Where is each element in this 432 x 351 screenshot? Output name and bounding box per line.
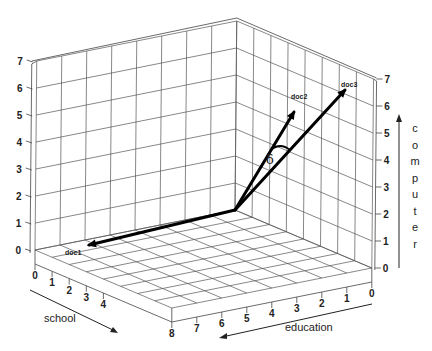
school-tick: 3: [84, 292, 90, 303]
right-wall-gridline: [303, 50, 305, 239]
left-wall-gridline: [35, 61, 37, 250]
school-tick: 0: [32, 270, 38, 281]
school-tick: 1: [49, 277, 55, 288]
computer-axis-arrow: [396, 114, 402, 268]
left-wall-gridline: [85, 51, 87, 240]
right-wall-gridline: [321, 57, 323, 246]
computer-label-letter: o: [412, 139, 418, 151]
right-computer-tick: 6: [384, 101, 390, 112]
right-computer-tick: 7: [385, 74, 391, 85]
left-computer-tick: 3: [16, 164, 22, 175]
school-tick: 2: [66, 285, 72, 296]
doc1-vector: [89, 210, 235, 245]
right-computer-tick: 4: [384, 155, 390, 166]
left-wall-gridline: [210, 26, 212, 215]
doc1-label: doc1: [65, 249, 81, 256]
computer-axis-label: computer: [410, 122, 419, 250]
education-tick: 5: [244, 313, 250, 324]
left-computer-tick: 1: [16, 218, 22, 229]
left-wall-edge: [32, 61, 37, 64]
left-wall-gridline: [135, 41, 137, 230]
left-wall-gridline: [160, 36, 162, 225]
vector-space-diagram: 012345670123456701234801234567 δ doc1 do…: [0, 0, 432, 351]
axis-ticks: 012345670123456701234801234567: [15, 56, 390, 339]
right-computer-tick: 2: [383, 209, 389, 220]
left-computer-tick: 7: [17, 56, 23, 67]
right-wall-gridline: [286, 43, 288, 232]
angle-delta-label: δ: [266, 152, 274, 167]
school-tick: 8: [169, 328, 175, 339]
right-computer-tick: 0: [383, 263, 389, 274]
doc2-label: doc2: [291, 93, 307, 100]
school-axis-label: school: [44, 312, 76, 324]
computer-label-letter: e: [412, 221, 418, 233]
computer-label-letter: u: [412, 188, 418, 200]
education-tick: 7: [194, 323, 200, 334]
right-wall-gridline: [235, 21, 237, 210]
doc3-label: doc3: [341, 81, 357, 88]
document-vectors: [87, 89, 346, 248]
right-computer-tick: 1: [383, 236, 389, 247]
right-wall-gridline: [372, 79, 374, 268]
computer-label-letter: m: [410, 155, 419, 167]
education-tick: 0: [369, 288, 375, 299]
right-wall-gridline: [269, 36, 271, 225]
education-tick: 4: [269, 308, 275, 319]
left-wall-gridline: [110, 46, 112, 235]
education-tick: 3: [294, 303, 300, 314]
left-wall-edge: [30, 64, 32, 253]
left-wall-gridline: [185, 31, 187, 220]
right-wall-top: [237, 18, 377, 78]
computer-label-letter: r: [413, 238, 417, 250]
education-tick: 6: [219, 318, 225, 329]
education-axis-label: education: [285, 321, 333, 333]
right-wall-gridline: [355, 72, 357, 261]
left-computer-tick: 6: [17, 83, 23, 94]
right-computer-tick: 3: [384, 182, 390, 193]
right-wall-edge: [374, 79, 377, 81]
grid: [30, 18, 377, 322]
right-computer-tick: 5: [384, 128, 390, 139]
computer-label-letter: c: [412, 122, 418, 134]
left-computer-tick: 0: [15, 245, 21, 256]
computer-label-letter: t: [413, 205, 416, 217]
school-tick: 4: [101, 299, 107, 310]
left-wall-top: [32, 18, 237, 61]
left-wall-gridline: [60, 56, 62, 245]
right-wall-edge: [375, 81, 377, 270]
computer-label-letter: p: [412, 172, 418, 184]
left-computer-tick: 5: [17, 110, 23, 121]
left-computer-tick: 2: [16, 191, 22, 202]
diagram-canvas: 012345670123456701234801234567 δ doc1 do…: [0, 0, 432, 351]
education-tick: 2: [319, 298, 325, 309]
left-computer-tick: 4: [16, 137, 22, 148]
education-tick: 1: [344, 293, 350, 304]
